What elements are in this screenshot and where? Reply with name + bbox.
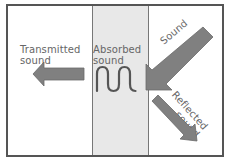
diagram-graphics <box>0 0 228 161</box>
transmitted-arrow-icon <box>33 62 84 86</box>
absorbed-wave-icon <box>97 67 136 91</box>
reflected-arrow-icon <box>152 95 197 141</box>
incident-arrow-icon <box>146 27 213 90</box>
